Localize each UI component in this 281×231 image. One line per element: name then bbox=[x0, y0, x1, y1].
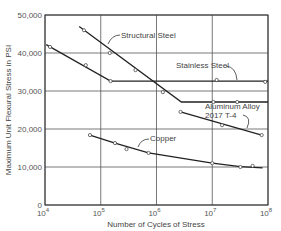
data-point-aluminum-alloy-2017-t-4 bbox=[220, 124, 223, 127]
data-point-copper bbox=[125, 148, 128, 151]
y-axis-ticks: 010,00020,00030,00040,00050,000 bbox=[18, 11, 43, 210]
y-tick-label: 40,000 bbox=[18, 49, 43, 58]
x-tick-label: 108 bbox=[260, 207, 273, 218]
annotation-aluminum-alloy: Aluminum Alloy bbox=[205, 102, 260, 111]
data-point-stainless-steel bbox=[264, 80, 267, 83]
data-point-structural-steel bbox=[82, 29, 85, 32]
x-tick-label: 107 bbox=[204, 207, 217, 218]
data-point-structural-steel bbox=[161, 91, 164, 94]
series-lines bbox=[46, 26, 268, 168]
data-point-copper bbox=[251, 164, 254, 167]
x-tick-label: 106 bbox=[148, 207, 161, 218]
y-tick-label: 30,000 bbox=[18, 87, 43, 96]
data-point-copper bbox=[147, 151, 150, 154]
x-tick-label: 105 bbox=[93, 207, 106, 218]
annotation-structural-steel: Structural Steel bbox=[121, 31, 176, 40]
data-point-aluminum-alloy-2017-t-4 bbox=[260, 133, 263, 136]
series-line-copper bbox=[90, 135, 263, 168]
y-axis-label: Maximum Unit Flexural Stress in PSI bbox=[4, 45, 13, 175]
data-point-stainless-steel bbox=[215, 78, 218, 81]
leader-copper bbox=[138, 139, 149, 147]
y-tick-label: 50,000 bbox=[18, 11, 43, 20]
y-tick-label: 10,000 bbox=[18, 163, 43, 172]
leader-structural-steel bbox=[108, 35, 120, 44]
fatigue-chart: 010,00020,00030,00040,00050,000 10410510… bbox=[0, 0, 281, 231]
data-point-stainless-steel bbox=[84, 64, 87, 67]
data-point-structural-steel bbox=[134, 69, 137, 72]
data-point-aluminum-alloy-2017-t-4 bbox=[179, 110, 182, 113]
x-tick-label: 104 bbox=[37, 207, 50, 218]
annotation-copper: Copper bbox=[150, 134, 177, 143]
data-point-copper bbox=[211, 162, 214, 165]
data-point-copper bbox=[88, 133, 91, 136]
data-point-copper bbox=[113, 141, 116, 144]
series-line-stainless-steel bbox=[46, 45, 268, 82]
data-point-stainless-steel bbox=[109, 80, 112, 83]
annotation-stainless-steel: Stainless Steel bbox=[176, 61, 229, 70]
data-point-copper bbox=[239, 165, 242, 168]
data-point-stainless-steel bbox=[48, 45, 51, 48]
x-axis-label: Number of Cycles of Stress bbox=[107, 220, 204, 229]
data-point-structural-steel bbox=[108, 51, 111, 54]
annotation-aluminum-grade: 2017 T-4 bbox=[205, 111, 237, 120]
y-tick-label: 20,000 bbox=[18, 125, 43, 134]
leader-aluminum bbox=[243, 115, 249, 128]
x-axis-ticks: 104105106107108 bbox=[37, 207, 273, 218]
